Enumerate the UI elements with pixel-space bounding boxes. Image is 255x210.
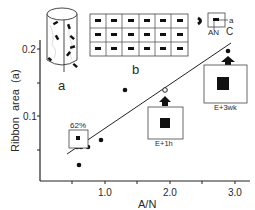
svg-text:62%: 62%: [70, 121, 86, 130]
svg-text:E+3wk: E+3wk: [214, 103, 237, 112]
inset-b-label: b: [132, 62, 139, 77]
inset-b-grid: [90, 14, 188, 56]
annotation-e1h: E+1h: [148, 96, 183, 148]
y-axis-label: Ribbon area (a): [9, 69, 21, 152]
inset-c-AN: AN: [208, 28, 219, 37]
chart-canvas: 0.2 0.1 1.0 2.0 3.0 A/N Ribbon area (a) …: [0, 0, 255, 210]
x-tick-label-2.0: 2.0: [163, 187, 177, 198]
open-data-point: [163, 88, 168, 93]
x-tick-label-3.0: 3.0: [228, 187, 242, 198]
inset-a-cylinder: [47, 8, 78, 72]
x-tick-label-1.0: 1.0: [98, 187, 112, 198]
annotation-62pct: 62%: [69, 121, 88, 148]
inset-a-label: a: [58, 78, 66, 93]
y-tick-label-0.1: 0.1: [23, 111, 37, 122]
x-axis-label: A/N: [138, 198, 156, 210]
inset-c-small-a: a: [229, 16, 234, 25]
annotation-e3wk: E+3wk: [204, 56, 247, 112]
inset-c-label: C: [226, 26, 233, 37]
svg-text:E+1h: E+1h: [155, 139, 173, 148]
y-tick-label-0.2: 0.2: [22, 44, 36, 55]
